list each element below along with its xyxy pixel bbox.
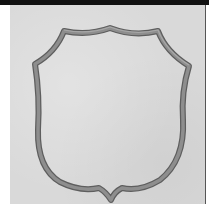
- shield-outline-icon: [0, 0, 209, 214]
- shield-stroke: [35, 28, 189, 200]
